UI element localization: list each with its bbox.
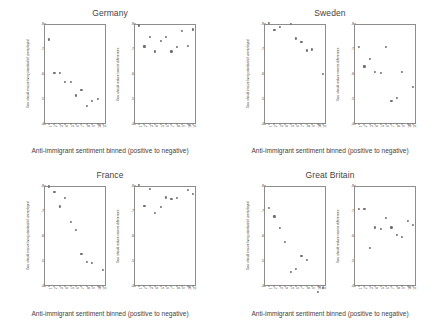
x-axis-tick-label: 7 — [391, 125, 395, 127]
data-point — [97, 98, 99, 100]
y-axis-label: Gov. should reduce income differences — [334, 186, 343, 286]
x-axis-tick-label: 3 — [150, 125, 154, 127]
x-axis-tick-label: 3 — [280, 125, 284, 127]
data-point — [385, 217, 387, 219]
panel-title: Germany — [0, 0, 220, 18]
data-point — [154, 212, 156, 214]
scatter-plot-great-britain-right: Gov. should reduce income differences.4.… — [334, 186, 416, 286]
data-point — [369, 58, 371, 60]
data-point — [80, 89, 82, 91]
y-axis: .4.5.6.7.8 — [343, 186, 354, 286]
x-axis-tick-label: 8 — [87, 287, 91, 289]
x-axis-tick-label: 4 — [65, 287, 69, 289]
data-point — [143, 205, 145, 207]
data-point — [170, 50, 172, 52]
data-point — [380, 72, 382, 74]
data-point — [284, 241, 286, 243]
y-axis-label: Gov. should reduce income differences — [114, 186, 123, 286]
x-axis-tick-label: 5 — [161, 287, 165, 289]
x-axis-tick-label: 9 — [312, 287, 316, 289]
y-axis: .4.5.6.7.8 — [33, 186, 44, 286]
country-panel-great-britain: Great BritainGov. should ensure living s… — [220, 162, 440, 325]
data-point — [48, 185, 50, 187]
data-point — [143, 45, 145, 47]
x-axis-tick-label: 6 — [76, 287, 80, 289]
x-axis-tick-label: 9 — [312, 125, 316, 127]
data-point — [300, 41, 302, 43]
data-point — [80, 253, 82, 255]
x-axis-tick-label: 11 — [413, 124, 417, 127]
x-axis-tick-label: 2 — [364, 287, 368, 289]
y-axis-label: Gov. should ensure living standard of un… — [24, 186, 33, 286]
y-axis-label: Gov. should reduce income differences — [114, 24, 123, 124]
data-point — [290, 23, 292, 25]
x-axis-tick-label: 8 — [177, 125, 181, 127]
x-axis-tick-label: 1 — [49, 287, 53, 289]
y-axis-label: Gov. should reduce income differences — [334, 24, 343, 124]
x-axis-caption: Anti-immigrant sentiment binned (positiv… — [220, 147, 440, 154]
y-axis: .4.5.6.7.8 — [123, 186, 134, 286]
x-axis-tick-label: 8 — [397, 125, 401, 127]
plot-area: 1234567891011 — [134, 186, 196, 286]
x-axis-tick-label: 3 — [150, 287, 154, 289]
x-axis-tick-label: 10 — [408, 124, 412, 128]
x-axis-tick-label: 11 — [103, 124, 107, 127]
figure-panel-grid: GermanyGov. should ensure living standar… — [0, 0, 440, 325]
x-axis-tick-label: 7 — [391, 287, 395, 289]
x-axis: 1234567891011 — [355, 123, 415, 133]
x-axis-tick-label: 4 — [375, 287, 379, 289]
data-point — [407, 220, 409, 222]
x-axis: 1234567891011 — [265, 123, 325, 133]
x-axis-caption: Anti-immigrant sentiment binned (positiv… — [0, 147, 220, 154]
data-point — [176, 197, 178, 199]
country-panel-sweden: SwedenGov. should ensure living standard… — [220, 0, 440, 162]
data-point — [396, 97, 398, 99]
data-point — [165, 36, 167, 38]
x-axis-tick-label: 1 — [139, 125, 143, 127]
x-axis-tick-label: 10 — [408, 286, 412, 290]
data-point — [306, 259, 308, 261]
data-point — [380, 228, 382, 230]
data-point — [273, 215, 275, 217]
x-axis-tick-label: 2 — [274, 125, 278, 127]
data-point — [374, 226, 376, 228]
x-axis-tick-label: 5 — [291, 125, 295, 127]
x-axis-tick-label: 3 — [370, 287, 374, 289]
data-point — [53, 72, 55, 74]
country-panel-france: FranceGov. should ensure living standard… — [0, 162, 220, 325]
data-point — [268, 207, 270, 209]
data-point — [138, 24, 140, 26]
data-point — [53, 191, 55, 193]
x-axis-tick-label: 3 — [280, 287, 284, 289]
data-point — [102, 269, 104, 271]
x-axis-tick-label: 2 — [54, 287, 58, 289]
x-axis-tick-label: 4 — [155, 125, 159, 127]
data-point — [374, 71, 376, 73]
data-point — [295, 37, 297, 39]
x-axis-tick-label: 2 — [144, 287, 148, 289]
x-axis-tick-label: 1 — [359, 287, 363, 289]
data-point — [390, 226, 392, 228]
y-axis: .4.5.6.7.8 — [123, 24, 134, 124]
plot-area: 1234567891011 — [44, 186, 106, 286]
data-point — [149, 188, 151, 190]
x-axis: 1234567891011 — [45, 123, 105, 133]
y-axis-label: Gov. should ensure living standard of un… — [244, 186, 253, 286]
plots-row: Gov. should ensure living standard of un… — [0, 186, 220, 286]
plot-area: 1234567891011 — [354, 24, 416, 124]
data-point — [401, 236, 403, 238]
scatter-plot-great-britain-left: Gov. should ensure living standard of un… — [244, 186, 326, 286]
x-axis-tick-label: 7 — [81, 287, 85, 289]
x-axis-tick-label: 6 — [166, 287, 170, 289]
data-point — [396, 234, 398, 236]
x-axis-tick-label: 8 — [307, 125, 311, 127]
x-axis-tick-label: 5 — [161, 125, 165, 127]
data-point — [138, 184, 140, 186]
data-point — [70, 81, 72, 83]
x-axis-tick-label: 10 — [98, 124, 102, 128]
plots-row: Gov. should ensure living standard of un… — [220, 186, 440, 286]
data-point — [358, 208, 360, 210]
x-axis-tick-label: 4 — [285, 287, 289, 289]
data-point — [192, 28, 194, 30]
data-point — [295, 268, 297, 270]
